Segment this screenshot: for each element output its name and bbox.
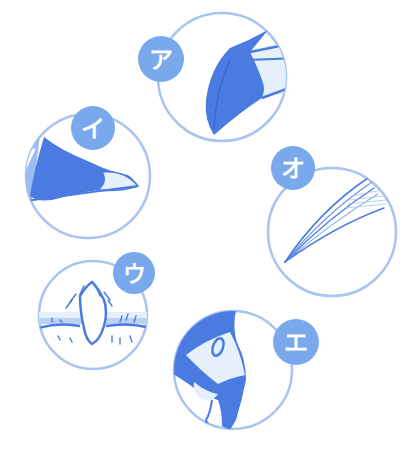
badge-i-label: イ [81, 115, 105, 143]
illustration-canvas: ア イ オ [0, 0, 415, 450]
panel-u: ウ [38, 252, 155, 369]
panel-a: ア [138, 13, 300, 141]
badge-a-label: ア [149, 46, 173, 74]
badge-e-label: エ [284, 329, 308, 357]
panel-o: オ [268, 146, 396, 296]
panel-i: イ [20, 106, 150, 238]
badge-u-label: ウ [123, 261, 146, 287]
badge-o-label: オ [281, 155, 305, 183]
panel-e: エ [170, 310, 319, 430]
